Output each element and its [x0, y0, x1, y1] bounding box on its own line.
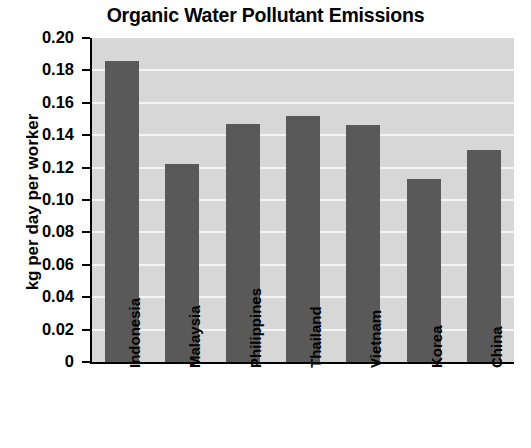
y-axis-tick-label: 0.12 [0, 158, 74, 177]
y-axis-tick-label: 0.18 [0, 60, 74, 79]
y-axis-tick [82, 37, 90, 39]
bar-chart: Organic Water Pollutant Emissions kg per… [0, 0, 531, 448]
y-axis-tick [82, 231, 90, 233]
y-axis-tick [82, 167, 90, 169]
chart-title: Organic Water Pollutant Emissions [0, 4, 531, 27]
y-axis-tick-label: 0.14 [0, 125, 74, 144]
plot-area [90, 38, 514, 364]
y-axis-tick-label: 0.08 [0, 222, 74, 241]
gridline [92, 69, 514, 71]
x-axis-category-label: Philippines [247, 248, 264, 368]
y-axis-tick-label: 0 [0, 352, 74, 371]
x-axis-category-label: Thailand [307, 248, 324, 368]
y-axis-tick-label: 0.04 [0, 287, 74, 306]
y-axis-tick-label: 0.10 [0, 190, 74, 209]
y-axis-tick-label: 0.20 [0, 28, 74, 47]
y-axis-tick-label: 0.06 [0, 255, 74, 274]
y-axis-tick [82, 296, 90, 298]
y-axis-tick-label: 0.02 [0, 320, 74, 339]
x-axis-category-label: China [488, 248, 505, 368]
y-axis-tick [82, 264, 90, 266]
y-axis-tick [82, 199, 90, 201]
x-axis-category-label: Vietnam [367, 248, 384, 368]
y-axis-tick [82, 102, 90, 104]
y-axis-tick [82, 69, 90, 71]
x-axis-category-label: Korea [428, 248, 445, 368]
y-axis-tick [82, 329, 90, 331]
y-axis-tick [82, 361, 90, 363]
y-axis-tick-label: 0.16 [0, 93, 74, 112]
x-axis-category-label: Indonesia [126, 248, 143, 368]
gridline [92, 102, 514, 104]
y-axis-tick [82, 134, 90, 136]
x-axis-category-label: Malaysia [186, 248, 203, 368]
